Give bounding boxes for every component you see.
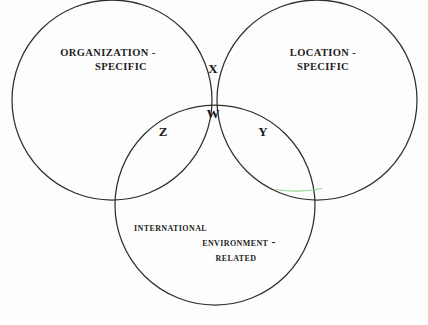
scan-artifact-green-fringe [276, 189, 322, 192]
circle-international-environment-related [115, 105, 315, 305]
venn-diagram: ORGANIZATION - SPECIFIC LOCATION - SPECI… [0, 0, 428, 325]
label-location-specific: LOCATION - SPECIFIC [253, 46, 393, 74]
label-international-line-1: INTERNATIONAL [126, 220, 316, 235]
label-location-line-2: SPECIFIC [253, 60, 393, 74]
region-label-y: Y [253, 124, 273, 140]
region-label-x: X [203, 61, 223, 77]
label-location-line-1: LOCATION - [253, 46, 393, 60]
circle-organization-specific [12, 0, 212, 200]
label-international-environment-related: INTERNATIONAL ENVIRONMENT - RELATED [126, 220, 316, 266]
circle-location-specific [217, 0, 417, 200]
label-organization-specific: ORGANIZATION - SPECIFIC [28, 46, 188, 74]
label-organization-line-1: ORGANIZATION - [28, 46, 188, 60]
region-label-z: Z [153, 124, 173, 140]
region-label-w: W [203, 106, 223, 122]
label-international-line-3: RELATED [126, 250, 316, 265]
label-organization-line-2: SPECIFIC [28, 60, 188, 74]
label-international-line-2: ENVIRONMENT - [126, 235, 316, 250]
